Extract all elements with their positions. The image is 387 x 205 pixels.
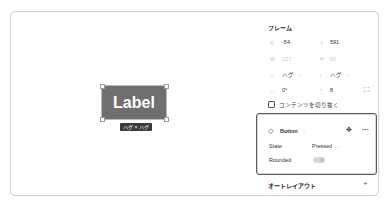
width-resizing-select[interactable]: ハグ bbox=[282, 71, 294, 79]
autolayout-section-title: オートレイアウト bbox=[268, 181, 316, 190]
add-autolayout-button[interactable]: + bbox=[363, 179, 368, 188]
corner-radius-icon: ⌜ bbox=[320, 88, 322, 94]
size-tag: ハグ × ハグ bbox=[120, 123, 152, 131]
prop-label-rounded: Rounded bbox=[269, 157, 291, 163]
component-icon: ◇ bbox=[268, 127, 273, 135]
hug-height-icon: ↕ bbox=[319, 72, 322, 78]
selected-button-component[interactable]: Label bbox=[102, 86, 166, 119]
w-field[interactable]: 127 bbox=[282, 56, 291, 62]
chevron-down-icon[interactable]: ⌄ bbox=[298, 71, 302, 77]
rotation-field[interactable]: 0° bbox=[282, 87, 287, 93]
x-label: X bbox=[270, 40, 273, 46]
more-icon[interactable]: ··· bbox=[362, 126, 369, 133]
chevron-down-icon[interactable]: ⌄ bbox=[302, 128, 306, 134]
resize-handle-tr[interactable] bbox=[164, 84, 169, 89]
button-label[interactable]: Label bbox=[102, 86, 166, 119]
chevron-down-icon[interactable]: ⌄ bbox=[292, 23, 296, 29]
corner-radius-field[interactable]: 8 bbox=[330, 87, 333, 93]
toggle-knob bbox=[320, 158, 324, 162]
chevron-down-icon[interactable]: ⌄ bbox=[336, 143, 340, 149]
clip-content-checkbox[interactable] bbox=[268, 101, 275, 108]
resize-handle-br[interactable] bbox=[164, 117, 169, 122]
state-select[interactable]: Pressed bbox=[312, 143, 332, 149]
rounded-toggle[interactable] bbox=[313, 157, 325, 163]
independent-corners-icon[interactable]: ⛶ bbox=[364, 86, 369, 94]
y-field[interactable]: 591 bbox=[330, 39, 339, 45]
x-field[interactable]: -54 bbox=[282, 39, 290, 45]
height-resizing-select[interactable]: ハグ bbox=[330, 71, 342, 79]
component-name[interactable]: Button bbox=[280, 128, 298, 134]
clip-content-label: コンテンツを切り抜く bbox=[279, 101, 339, 109]
resize-handle-tl[interactable] bbox=[100, 84, 105, 89]
chevron-down-icon[interactable]: ⌄ bbox=[345, 71, 349, 77]
h-field[interactable]: 60 bbox=[330, 56, 336, 62]
frame-section-title[interactable]: フレーム bbox=[268, 23, 292, 32]
prop-label-state: State bbox=[269, 143, 282, 149]
h-label: H bbox=[320, 56, 324, 62]
go-to-main-component-icon[interactable]: ✥ bbox=[346, 126, 352, 134]
rotation-icon: ∟ bbox=[270, 88, 275, 94]
w-label: W bbox=[270, 56, 275, 62]
resize-handle-bl[interactable] bbox=[100, 117, 105, 122]
y-label: Y bbox=[320, 40, 323, 46]
hug-width-icon: ↔ bbox=[269, 72, 274, 78]
